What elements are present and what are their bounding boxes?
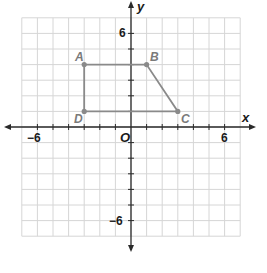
y-axis-label: y — [137, 1, 144, 13]
x-axis-right-arrow-icon — [249, 124, 256, 130]
y-tick-label-6: 6 — [119, 27, 126, 39]
x-tick-label-neg6: −6 — [27, 132, 41, 144]
point-label-d: D — [74, 113, 83, 125]
x-tick-label-6: 6 — [221, 132, 228, 144]
x-axis-label: x — [242, 112, 249, 124]
point-label-a: A — [75, 51, 84, 63]
point-label-c: C — [181, 113, 190, 125]
y-tick-label-neg6: −6 — [109, 215, 123, 227]
y-axis-up-arrow-icon — [128, 1, 134, 8]
point-c — [175, 109, 180, 114]
y-axis-down-arrow-icon — [128, 245, 134, 252]
axes — [4, 1, 256, 252]
point-b — [144, 62, 149, 67]
point-label-b: B — [150, 51, 159, 63]
x-axis-left-arrow-icon — [4, 124, 11, 130]
origin-label: O — [120, 132, 130, 144]
